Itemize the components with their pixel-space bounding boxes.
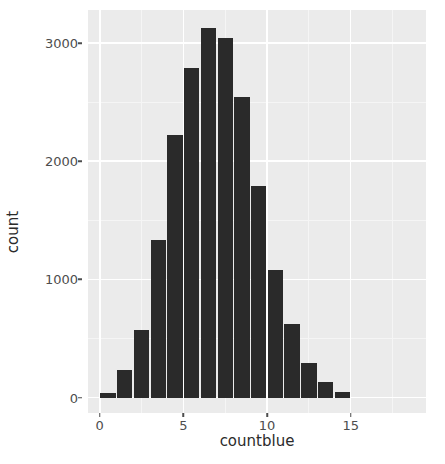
histogram-bar — [284, 324, 299, 397]
gridline-minor-horizontal — [88, 102, 426, 103]
plot-panel — [88, 10, 426, 413]
x-axis-title: countblue — [88, 432, 426, 450]
x-axis-tick-label: 5 — [179, 418, 187, 433]
gridline-major-vertical — [350, 10, 352, 413]
y-axis-tick-label: 3000 — [30, 36, 78, 51]
y-axis-tick-mark — [78, 161, 82, 163]
histogram-bar — [234, 97, 249, 397]
y-axis-title-label: count — [4, 211, 22, 253]
gridline-minor-vertical — [392, 10, 393, 413]
y-axis-tick-mark — [78, 279, 82, 281]
x-axis-tick-label: 15 — [342, 418, 359, 433]
histogram-bar — [134, 330, 149, 397]
x-axis-title-label: countblue — [220, 432, 295, 450]
histogram-bar — [201, 28, 216, 398]
x-axis-tick-mark — [350, 413, 352, 417]
gridline-minor-vertical — [308, 10, 309, 413]
gridline-major-vertical — [99, 10, 101, 413]
histogram-bar — [167, 135, 182, 397]
histogram-bar — [218, 38, 233, 397]
x-axis-tick-mark — [99, 413, 101, 417]
x-axis-ticks: 051015 — [0, 391, 445, 431]
histogram-bar — [151, 240, 166, 397]
x-axis-tick-mark — [266, 413, 268, 417]
y-axis-tick-label: 2000 — [30, 154, 78, 169]
y-axis-tick-mark — [78, 42, 82, 44]
histogram-chart: 0100020003000 051015 count countblue — [0, 0, 445, 464]
x-axis-tick-mark — [183, 413, 185, 417]
histogram-bar — [251, 186, 266, 398]
gridline-major-horizontal — [88, 42, 426, 44]
histogram-bar — [184, 68, 199, 398]
x-axis-tick-label: 0 — [96, 418, 104, 433]
histogram-bar — [268, 270, 283, 398]
y-axis-tick-label: 1000 — [30, 272, 78, 287]
gridline-major-horizontal — [88, 160, 426, 162]
x-axis-tick-label: 10 — [259, 418, 276, 433]
